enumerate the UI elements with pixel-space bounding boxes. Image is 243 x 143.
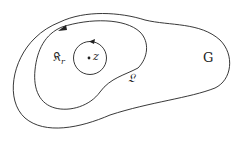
point-z — [88, 57, 91, 60]
circle-k-label-main: 𝔎 — [53, 50, 61, 64]
circle-k-label-subscript: r — [61, 57, 65, 66]
diagram-canvas — [0, 0, 243, 143]
contour-l — [35, 21, 147, 109]
circle-k-r-label: 𝔎r — [53, 51, 65, 66]
contour-l-label: 𝔏 — [128, 72, 135, 84]
region-g-boundary — [13, 14, 229, 129]
region-g-label: G — [203, 51, 213, 64]
circle-k-r-arrow-icon — [89, 39, 95, 44]
point-z-label: z — [93, 51, 99, 62]
